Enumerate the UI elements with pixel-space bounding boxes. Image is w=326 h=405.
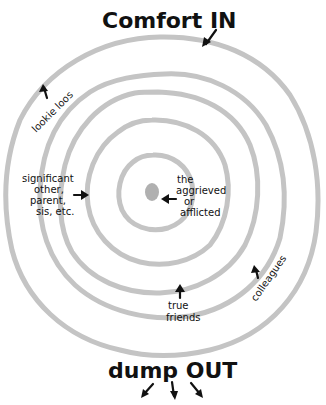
svg-text:true: true: [168, 300, 189, 311]
svg-text:other,: other,: [34, 184, 64, 195]
dump-out-arrows-icon: [141, 382, 203, 400]
center-dot: [145, 183, 159, 201]
label-aggrieved: the aggrieved or afflicted: [176, 174, 226, 218]
svg-text:the: the: [177, 174, 193, 185]
aggrieved-arrow-icon: [161, 194, 176, 204]
svg-text:afflicted: afflicted: [180, 207, 221, 218]
svg-text:friends: friends: [166, 312, 200, 323]
title-dump-out: dump OUT: [108, 358, 237, 383]
svg-text:aggrieved: aggrieved: [176, 185, 226, 196]
label-true-friends: true friends: [166, 300, 200, 323]
svg-text:significant: significant: [22, 173, 74, 184]
true-friends-arrow-icon: [175, 284, 185, 298]
svg-text:or: or: [184, 196, 195, 207]
svg-text:sis, etc.: sis, etc.: [36, 206, 74, 217]
label-significant-other: significant other, parent, sis, etc.: [22, 173, 74, 217]
ring-theory-diagram: Comfort IN lookie loos significant other…: [0, 0, 326, 405]
svg-text:parent,: parent,: [30, 195, 66, 206]
